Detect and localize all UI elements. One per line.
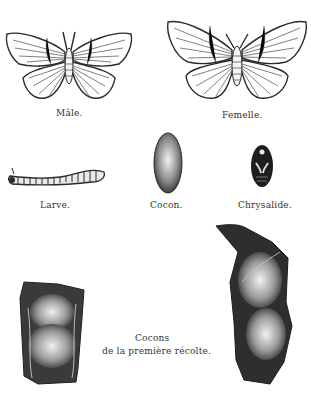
harvest-cocoon-right-illustration (214, 222, 294, 392)
caption-female: Femelle. (222, 110, 262, 120)
caption-cocoon: Cocon. (150, 200, 183, 210)
cocoon-illustration (150, 130, 186, 196)
harvest-cocoon-left-illustration (18, 278, 88, 388)
chrysalis-illustration (248, 143, 276, 189)
caption-larva: Larve. (40, 200, 70, 210)
caption-male: Mâle. (56, 108, 83, 118)
male-moth-illustration (3, 22, 135, 102)
larva-illustration (6, 162, 108, 188)
female-moth-illustration (164, 12, 310, 102)
caption-chrysalis: Chrysalide. (238, 200, 292, 210)
caption-first-harvest-line2: de la première récolte. (102, 346, 211, 356)
caption-first-harvest-line1: Cocons (135, 333, 169, 343)
